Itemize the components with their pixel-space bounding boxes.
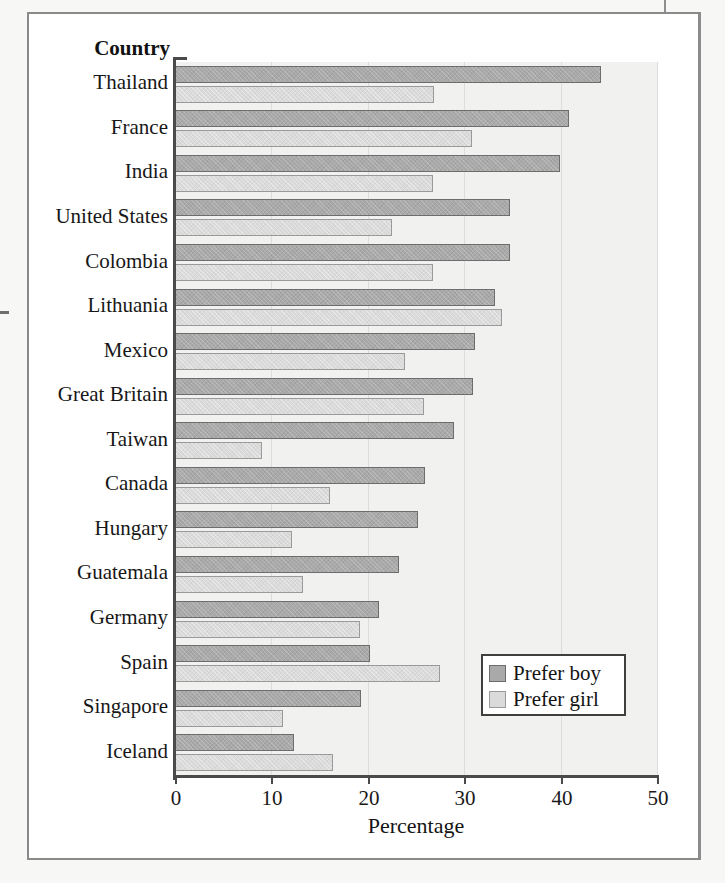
bar-prefer-girl (175, 665, 440, 682)
x-axis-tick-label: 30 (440, 786, 490, 811)
bar-prefer-boy (175, 645, 370, 662)
x-axis-tick (657, 775, 659, 784)
y-axis-title: Country (55, 36, 170, 61)
legend-swatch-girl-icon (489, 691, 506, 708)
y-axis-label: France (20, 117, 168, 138)
bar-prefer-boy (175, 467, 425, 484)
bar-prefer-girl (175, 531, 292, 548)
x-axis-tick-label: 10 (247, 786, 297, 811)
bar-prefer-boy (175, 244, 510, 261)
y-axis-label: Great Britain (20, 384, 168, 405)
chart-legend: Prefer boy Prefer girl (481, 654, 626, 716)
y-axis-label: Guatemala (20, 562, 168, 583)
bar-prefer-girl (175, 86, 434, 103)
gridline (657, 62, 658, 775)
legend-swatch-boy-icon (489, 665, 506, 682)
bar-prefer-girl (175, 576, 303, 593)
bar-prefer-girl (175, 398, 424, 415)
bar-prefer-girl (175, 442, 262, 459)
bar-prefer-girl (175, 219, 392, 236)
bar-prefer-boy (175, 199, 510, 216)
x-axis-line (173, 775, 659, 778)
x-axis-title: Percentage (175, 813, 657, 839)
x-axis-tick (464, 775, 466, 784)
y-axis-label: Iceland (20, 741, 168, 762)
x-axis-tick-label: 20 (344, 786, 394, 811)
bar-prefer-boy (175, 66, 601, 83)
bar-prefer-boy (175, 110, 569, 127)
y-axis-label: Canada (20, 473, 168, 494)
bar-prefer-girl (175, 754, 333, 771)
x-axis-tick (271, 775, 273, 784)
y-axis-label: Hungary (20, 518, 168, 539)
bar-prefer-girl (175, 621, 360, 638)
x-axis-tick-label: 40 (537, 786, 587, 811)
bar-prefer-boy (175, 556, 399, 573)
y-axis-label: Lithuania (20, 295, 168, 316)
bar-prefer-boy (175, 601, 379, 618)
bar-prefer-boy (175, 333, 475, 350)
y-axis-line (173, 57, 176, 780)
bar-prefer-girl (175, 710, 283, 727)
x-axis-tick (175, 775, 177, 784)
x-axis-tick (561, 775, 563, 784)
x-axis-tick (368, 775, 370, 784)
y-axis-label: Colombia (20, 251, 168, 272)
bar-prefer-boy (175, 690, 361, 707)
bar-prefer-boy (175, 155, 560, 172)
y-axis-top-cap (173, 57, 187, 60)
bar-prefer-boy (175, 422, 454, 439)
x-axis-tick-label: 0 (151, 786, 201, 811)
bar-prefer-girl (175, 309, 502, 326)
x-axis-tick-label: 50 (633, 786, 683, 811)
y-axis-label: Mexico (20, 340, 168, 361)
bar-prefer-girl (175, 487, 330, 504)
y-axis-label: Thailand (20, 72, 168, 93)
y-axis-label: Taiwan (20, 429, 168, 450)
y-axis-label: Germany (20, 607, 168, 628)
bar-prefer-boy (175, 511, 418, 528)
y-axis-label: India (20, 161, 168, 182)
legend-label-prefer-girl: Prefer girl (513, 689, 599, 710)
legend-label-prefer-boy: Prefer boy (513, 663, 601, 684)
bar-prefer-boy (175, 289, 495, 306)
y-axis-label: Singapore (20, 696, 168, 717)
bar-chart: Country ThailandFranceIndiaUnited States… (0, 0, 725, 883)
bar-prefer-boy (175, 734, 294, 751)
bar-prefer-girl (175, 130, 472, 147)
y-axis-label: Spain (20, 652, 168, 673)
legend-item-prefer-boy: Prefer boy (489, 660, 618, 686)
y-axis-label: United States (20, 206, 168, 227)
bar-prefer-boy (175, 378, 473, 395)
bar-prefer-girl (175, 264, 433, 281)
bar-prefer-girl (175, 353, 405, 370)
bar-prefer-girl (175, 175, 433, 192)
legend-item-prefer-girl: Prefer girl (489, 686, 618, 712)
